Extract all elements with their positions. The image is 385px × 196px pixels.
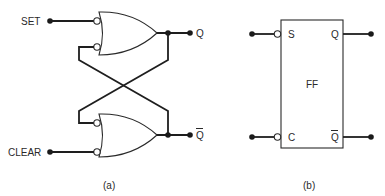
caption-a: (a): [103, 180, 115, 191]
lower-gate-bubble-clear: [94, 149, 100, 155]
ff-label: FF: [306, 79, 318, 90]
q-label: Q: [196, 28, 204, 39]
qbar-terminal: [187, 132, 193, 138]
figure-a-latch: SET Q CLEAR Q (a): [8, 12, 204, 191]
ff-qbar-pin-label: Q: [331, 132, 339, 143]
qbar-junction: [165, 132, 171, 138]
upper-gate-bubble-set: [94, 18, 100, 24]
q-terminal: [187, 30, 193, 36]
upper-or-gate: [99, 12, 157, 55]
set-label: SET: [21, 16, 40, 27]
lower-gate-bubble-feedback: [94, 120, 100, 126]
s-bubble: [274, 31, 280, 37]
qbar-label: Q: [196, 130, 204, 141]
caption-b: (b): [303, 180, 315, 191]
s-pin-label: S: [288, 29, 295, 40]
c-bubble: [274, 134, 280, 140]
flip-flop-diagram: SET Q CLEAR Q (a): [0, 0, 385, 196]
ff-qbar-terminal: [368, 134, 374, 140]
upper-gate-bubble-feedback: [94, 44, 100, 50]
ff-q-pin-label: Q: [331, 29, 339, 40]
clear-label: CLEAR: [8, 147, 41, 158]
c-pin-label: C: [288, 132, 295, 143]
lower-or-gate: [99, 114, 157, 157]
figure-b-ff-block: FF S C Q Q (b): [249, 20, 374, 191]
ff-q-terminal: [368, 31, 374, 37]
